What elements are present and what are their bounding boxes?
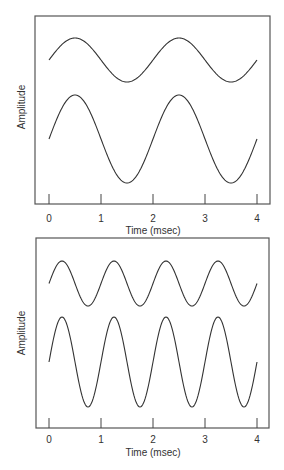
upper-wave <box>49 38 257 82</box>
x-tick-label: 4 <box>254 434 260 445</box>
x-tick-label: 1 <box>98 213 104 224</box>
upper-wave <box>49 261 257 306</box>
x-axis-label: Time (msec) <box>125 447 180 458</box>
x-axis-label: Time (msec) <box>125 225 180 236</box>
figure: 0 1 2 3 4 Time (msec) Amplitude 0 1 2 3 … <box>0 0 284 470</box>
x-tick-label: 3 <box>202 434 208 445</box>
lower-wave <box>49 317 257 407</box>
bottom-panel: 0 1 2 3 4 Time (msec) Amplitude <box>16 238 269 458</box>
x-axis-ticks <box>49 194 257 204</box>
x-tick-label: 1 <box>98 434 104 445</box>
x-tick-label: 3 <box>202 213 208 224</box>
x-tick-label: 4 <box>254 213 260 224</box>
y-axis-label: Amplitude <box>16 310 27 355</box>
plot-frame <box>35 16 270 204</box>
x-tick-label: 2 <box>150 434 156 445</box>
x-tick-label: 0 <box>46 434 52 445</box>
x-axis-ticks <box>49 418 257 428</box>
x-tick-label: 0 <box>46 213 52 224</box>
lower-wave <box>49 95 257 183</box>
plot-frame <box>36 238 269 428</box>
y-axis-label: Amplitude <box>16 84 27 129</box>
x-tick-label: 2 <box>150 213 156 224</box>
top-panel: 0 1 2 3 4 Time (msec) Amplitude <box>16 16 270 236</box>
